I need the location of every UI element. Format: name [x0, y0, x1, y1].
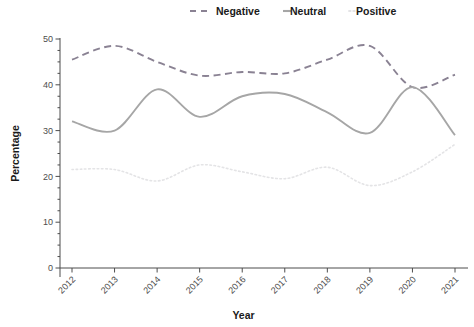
- line-chart: 01020304050Percentage2012201320142015201…: [0, 0, 474, 327]
- legend-label-positive: Positive: [356, 5, 396, 17]
- y-axis: 01020304050Percentage: [9, 34, 60, 277]
- legend: NegativeNeutralPositive: [190, 5, 396, 17]
- x-axis-tick-label: 2017: [269, 274, 290, 295]
- x-axis-tick-label: 2014: [141, 274, 162, 295]
- y-axis-tick-label: 20: [43, 172, 53, 182]
- x-axis-tick-label: 2018: [312, 274, 333, 295]
- x-axis-tick-label: 2015: [184, 274, 205, 295]
- series-line-neutral: [72, 87, 455, 135]
- legend-item-neutral[interactable]: Neutral: [283, 5, 326, 17]
- legend-label-neutral: Neutral: [290, 5, 326, 17]
- y-axis-tick-label: 0: [48, 263, 53, 273]
- series-line-negative: [72, 45, 455, 88]
- x-axis-tick-label: 2013: [99, 274, 120, 295]
- y-axis-tick-label: 40: [43, 80, 53, 90]
- x-axis-tick-label: 2019: [354, 274, 375, 295]
- chart-canvas: 01020304050Percentage2012201320142015201…: [0, 0, 474, 327]
- x-axis-tick-label: 2021: [439, 274, 460, 295]
- y-axis-tick-label: 30: [43, 126, 53, 136]
- legend-item-negative[interactable]: Negative: [190, 5, 260, 17]
- x-axis-tick-label: 2012: [56, 274, 77, 295]
- series-group: [72, 45, 455, 186]
- y-axis-title: Percentage: [9, 125, 21, 182]
- series-line-positive: [72, 144, 455, 185]
- legend-label-negative: Negative: [216, 5, 260, 17]
- x-axis-title: Year: [232, 309, 254, 321]
- x-axis-tick-label: 2016: [226, 274, 247, 295]
- y-axis-tick-label: 10: [43, 217, 53, 227]
- legend-item-positive[interactable]: Positive: [349, 5, 396, 17]
- x-axis-tick-label: 2020: [397, 274, 418, 295]
- y-axis-tick-label: 50: [43, 34, 53, 44]
- x-axis: 2012201320142015201620172018201920202021…: [56, 268, 468, 321]
